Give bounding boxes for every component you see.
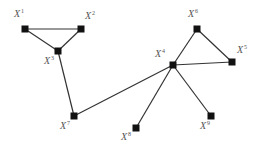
node-label-x8: X8 [120, 131, 131, 142]
node-label-base: X [13, 8, 21, 19]
node-x3 [55, 48, 62, 55]
edge-x4-x6 [173, 29, 197, 65]
node-label-x2: X2 [84, 10, 95, 21]
edge-x6-x5 [197, 29, 232, 62]
node-x8 [133, 125, 140, 132]
node-label-base: X [236, 44, 244, 55]
node-label-superscript: 8 [128, 131, 131, 137]
node-label-superscript: 1 [21, 8, 24, 14]
edge-x1-x3 [25, 29, 58, 51]
node-label-x5: X5 [236, 44, 247, 55]
node-label-x7: X7 [59, 120, 70, 131]
node-x5 [229, 59, 236, 66]
node-x4 [170, 62, 177, 69]
node-label-x9: X9 [199, 120, 210, 131]
node-label-base: X [84, 10, 92, 21]
node-label-superscript: 3 [51, 55, 54, 61]
node-label-superscript: 5 [244, 44, 247, 50]
edge-x4-x9 [173, 65, 211, 116]
node-x7 [71, 113, 78, 120]
node-label-base: X [120, 131, 128, 142]
node-label-superscript: 2 [92, 10, 95, 16]
node-label-base: X [199, 120, 207, 131]
edges-layer [25, 29, 232, 128]
network-graph: X1X2X3X4X5X6X7X8X9 [0, 0, 260, 153]
node-label-superscript: 4 [162, 48, 165, 54]
node-label-x4: X4 [154, 48, 165, 59]
node-label-superscript: 7 [67, 120, 70, 126]
node-label-base: X [59, 120, 67, 131]
node-x6 [194, 26, 201, 33]
node-x2 [78, 26, 85, 33]
node-label-superscript: 9 [207, 120, 210, 126]
node-x1 [22, 26, 29, 33]
node-label-x3: X3 [43, 55, 54, 66]
node-label-base: X [43, 55, 51, 66]
node-label-x6: X6 [187, 8, 198, 19]
labels-layer: X1X2X3X4X5X6X7X8X9 [13, 8, 247, 142]
node-label-base: X [154, 48, 162, 59]
node-label-base: X [187, 8, 195, 19]
node-label-x1: X1 [13, 8, 24, 19]
node-label-superscript: 6 [195, 8, 198, 14]
node-x9 [208, 113, 215, 120]
edge-x4-x5 [173, 62, 232, 65]
edge-x3-x7 [58, 51, 74, 116]
nodes-layer [22, 26, 236, 132]
